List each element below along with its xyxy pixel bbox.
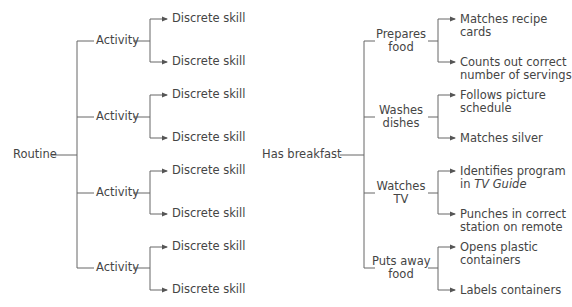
skill-node: Discrete skill bbox=[172, 283, 245, 296]
activity-node: Activity bbox=[96, 34, 139, 47]
skill-line2: containers bbox=[460, 254, 538, 267]
activity-node: Activity bbox=[96, 186, 139, 199]
skill-node: Identifies program in TV Guide bbox=[460, 165, 566, 191]
skill-node: Opens plastic containers bbox=[460, 241, 538, 267]
skill-node: Labels containers bbox=[460, 284, 561, 297]
activity-node-puts-away-food: Puts away food bbox=[372, 255, 430, 281]
activity-node: Activity bbox=[96, 261, 139, 274]
activity-node-prepares-food: Prepares food bbox=[374, 28, 428, 54]
activity-node: Activity bbox=[96, 110, 139, 123]
skill-node: Follows picture schedule bbox=[460, 89, 546, 115]
tv-guide-title: TV Guide bbox=[474, 177, 526, 191]
activity-label-line2: dishes bbox=[374, 117, 428, 130]
activity-node-watches-tv: Watches TV bbox=[374, 180, 428, 206]
skill-node: Discrete skill bbox=[172, 207, 245, 220]
root-node-routine: Routine bbox=[13, 148, 57, 161]
skill-line2: cards bbox=[460, 26, 547, 39]
skill-node: Matches silver bbox=[460, 132, 543, 145]
skill-node: Discrete skill bbox=[172, 131, 245, 144]
skill-node: Counts out correct number of servings bbox=[460, 56, 572, 82]
activity-label-line2: TV bbox=[374, 193, 428, 206]
skill-line1: Matches silver bbox=[460, 132, 543, 145]
skill-node: Discrete skill bbox=[172, 12, 245, 25]
activity-label-line2: food bbox=[374, 41, 428, 54]
skill-line2: number of servings bbox=[460, 69, 572, 82]
skill-line2: station on remote bbox=[460, 221, 566, 234]
activity-label-line2: food bbox=[372, 268, 430, 281]
activity-node-washes-dishes: Washes dishes bbox=[374, 104, 428, 130]
skill-node: Discrete skill bbox=[172, 164, 245, 177]
root-node-has-breakfast: Has breakfast bbox=[262, 148, 342, 161]
skill-line1: Labels containers bbox=[460, 284, 561, 297]
skill-node: Matches recipe cards bbox=[460, 13, 547, 39]
skill-node: Discrete skill bbox=[172, 55, 245, 68]
skill-node: Discrete skill bbox=[172, 88, 245, 101]
skill-line2: in TV Guide bbox=[460, 178, 566, 191]
skill-node: Discrete skill bbox=[172, 240, 245, 253]
skill-line2: schedule bbox=[460, 102, 546, 115]
skill-node: Punches in correct station on remote bbox=[460, 208, 566, 234]
